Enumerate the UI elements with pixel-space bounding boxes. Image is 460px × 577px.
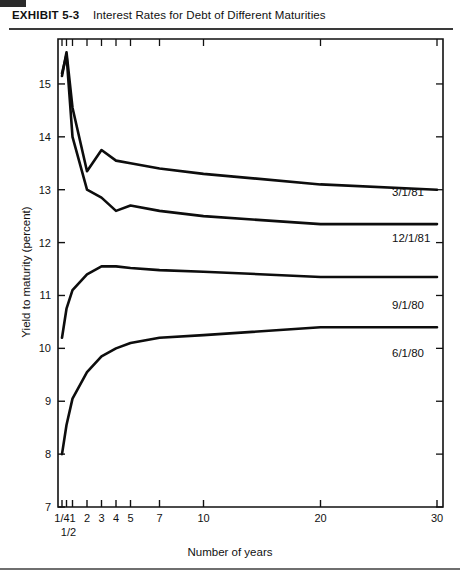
footer-divider-rule bbox=[0, 568, 460, 570]
y-tick-label: 8 bbox=[45, 448, 51, 460]
exhibit-number-label: EXHIBIT 5-3 bbox=[12, 9, 79, 21]
corner-mark-decoration bbox=[0, 0, 26, 7]
header-divider-rule bbox=[9, 28, 453, 30]
x-axis-ticks: 1/41/2123457102030 bbox=[54, 39, 443, 538]
y-tick-label: 10 bbox=[39, 342, 51, 354]
x-axis-title: Number of years bbox=[0, 546, 460, 558]
y-tick-label: 12 bbox=[39, 237, 51, 249]
x-tick-label: 3 bbox=[98, 512, 104, 524]
series-label: 9/1/80 bbox=[392, 299, 424, 311]
series-label: 6/1/80 bbox=[392, 347, 424, 359]
exhibit-title: Interest Rates for Debt of Different Mat… bbox=[93, 9, 326, 21]
chart-plot-area: 1/41/2123457102030 789101112131415 3/1/8… bbox=[0, 34, 460, 568]
x-tick-label: 1/4 bbox=[54, 512, 69, 524]
y-tick-label: 13 bbox=[39, 184, 51, 196]
x-tick-label: 1 bbox=[69, 512, 75, 524]
y-axis-ticks: 789101112131415 bbox=[39, 78, 443, 513]
x-tick-label: 1/2 bbox=[61, 526, 76, 538]
x-tick-label: 2 bbox=[84, 512, 90, 524]
series-lines bbox=[62, 52, 437, 454]
y-tick-label: 11 bbox=[40, 289, 51, 301]
y-tick-label: 14 bbox=[39, 131, 51, 143]
series-line bbox=[62, 327, 437, 454]
x-tick-label: 4 bbox=[113, 512, 119, 524]
x-tick-label: 7 bbox=[156, 512, 162, 524]
series-line bbox=[62, 55, 437, 224]
series-line bbox=[62, 52, 437, 189]
exhibit-header: EXHIBIT 5-3 Interest Rates for Debt of D… bbox=[0, 0, 460, 34]
y-axis-title: Yield to maturity (percent) bbox=[20, 172, 32, 372]
x-tick-label: 10 bbox=[197, 512, 209, 524]
x-tick-label: 5 bbox=[127, 512, 133, 524]
series-label: 12/1/81 bbox=[392, 232, 430, 244]
series-label: 3/1/81 bbox=[392, 186, 424, 198]
x-tick-label: 20 bbox=[314, 512, 326, 524]
x-tick-label: 30 bbox=[431, 512, 443, 524]
yield-curve-chart: 1/41/2123457102030 789101112131415 3/1/8… bbox=[0, 34, 460, 568]
series-labels: 3/1/8112/1/819/1/806/1/80 bbox=[392, 186, 430, 359]
y-tick-label: 9 bbox=[45, 395, 51, 407]
y-tick-label: 7 bbox=[45, 501, 51, 513]
y-tick-label: 15 bbox=[39, 78, 51, 90]
